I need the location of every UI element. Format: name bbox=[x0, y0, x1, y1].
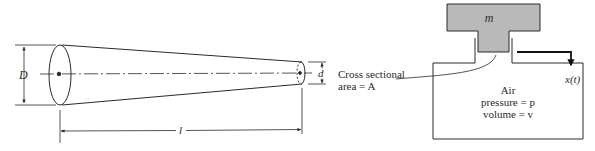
label-displacement: x(t) bbox=[564, 73, 581, 86]
tapered-cone bbox=[40, 45, 312, 105]
leader-line bbox=[396, 55, 496, 79]
label-air: Air bbox=[501, 84, 516, 96]
label-D: D bbox=[18, 68, 28, 82]
label-area: area = A bbox=[338, 80, 375, 92]
cone-large-center-dot bbox=[57, 72, 61, 76]
label-mass: m bbox=[485, 11, 494, 25]
label-d: d bbox=[318, 67, 324, 79]
cone-centerline bbox=[40, 73, 312, 74]
label-volume: volume = v bbox=[483, 108, 534, 120]
cone-top-edge bbox=[62, 45, 302, 62]
figure-canvas: D d l Cross sectional area = A m x(t) Ai… bbox=[0, 0, 595, 151]
label-pressure: pressure = p bbox=[481, 96, 535, 108]
cone-bottom-edge bbox=[62, 84, 302, 105]
label-cross-sectional: Cross sectional bbox=[338, 68, 405, 80]
cone-small-center-dot bbox=[299, 72, 302, 75]
mass-block bbox=[447, 4, 540, 52]
label-l: l bbox=[179, 124, 182, 136]
